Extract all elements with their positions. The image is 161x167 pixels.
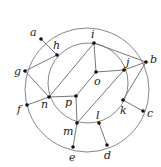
label-m: m [63,125,73,138]
label-h: h [53,39,60,52]
point-b [144,60,148,64]
point-g [23,69,27,73]
edge-m-e [73,123,77,147]
edge-p-m [76,96,77,123]
point-c [141,109,145,113]
label-f: f [16,103,23,116]
edge-g-n [25,71,49,97]
label-l: l [96,109,100,122]
point-a [39,37,43,41]
label-j: j [123,56,130,69]
point-h [55,53,59,57]
label-i: i [91,28,95,41]
point-d [105,143,109,147]
point-m [75,121,79,125]
label-o: o [94,75,101,88]
geometry-diagram: abcdefghijklmnop [0,0,161,167]
label-e: e [69,151,76,164]
label-c: c [147,107,153,120]
point-e [71,145,75,149]
point-f [25,103,29,107]
label-n: n [41,98,48,111]
point-p [74,94,78,98]
outer-circle [25,28,149,152]
edge-l-d [99,123,107,145]
label-a: a [30,26,37,39]
label-g: g [14,65,21,78]
label-k: k [120,104,127,117]
diagram-canvas: abcdefghijklmnop [0,0,161,167]
edge-i-o [94,43,96,72]
edge-h-g [25,55,57,71]
label-b: b [150,53,157,66]
label-p: p [65,96,72,109]
point-k [121,98,125,102]
edge-o-j [96,70,124,72]
point-i [92,41,96,45]
label-d: d [104,149,111,162]
point-o [94,70,98,74]
edge-p-o [76,72,96,96]
